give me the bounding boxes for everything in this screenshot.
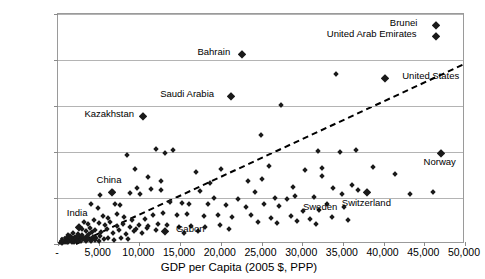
y-tick-mark	[54, 60, 58, 61]
gridline-y	[58, 106, 463, 107]
y-tick-mark	[54, 14, 58, 15]
gridline-y	[58, 198, 463, 199]
point-label: China	[97, 175, 122, 185]
gridline-y	[58, 60, 463, 61]
y-axis-title: CO2Emissions per Capita (Metric Tons)	[0, 0, 11, 26]
x-axis-title: GDP per Capita (2005 $, PPP)	[0, 261, 478, 273]
x-tick-label: 50,000	[434, 247, 485, 258]
point-label: Kazakhstan	[84, 109, 134, 119]
point-label: Norway	[424, 157, 456, 167]
point-label: India	[67, 208, 88, 218]
point-label: Switzerland	[342, 198, 391, 208]
point-label: United States	[402, 71, 459, 81]
gridline-y	[58, 152, 463, 153]
plot-area	[57, 13, 464, 243]
gridline-y	[58, 14, 463, 15]
trendline	[58, 14, 465, 244]
point-label: Bahrain	[197, 47, 230, 57]
point-label: Sweden	[303, 202, 337, 212]
chart-title-cropped	[0, 0, 478, 7]
point-label: Brunei	[390, 18, 417, 28]
point-label: Gabon	[176, 224, 205, 234]
y-tick-mark	[54, 152, 58, 153]
y-tick-mark	[54, 106, 58, 107]
point-label: Saudi Arabia	[160, 89, 214, 99]
y-tick-mark	[54, 198, 58, 199]
point-label: United Arab Emirates	[327, 29, 417, 39]
